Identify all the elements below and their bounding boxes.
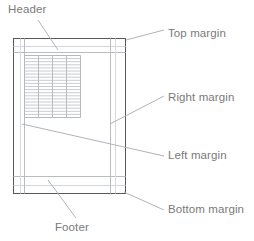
top-margin-leader-line <box>126 30 164 40</box>
label-right-margin: Right margin <box>168 92 234 104</box>
content-table-grid <box>25 56 81 118</box>
label-left-margin: Left margin <box>168 150 227 162</box>
page-layout-diagram: Header Top margin Right margin Left marg… <box>0 0 254 241</box>
label-top-margin: Top margin <box>168 28 226 40</box>
bottom-margin-leader-line <box>124 192 164 210</box>
label-bottom-margin: Bottom margin <box>168 204 244 216</box>
label-header: Header <box>8 4 46 16</box>
label-footer: Footer <box>55 222 89 234</box>
